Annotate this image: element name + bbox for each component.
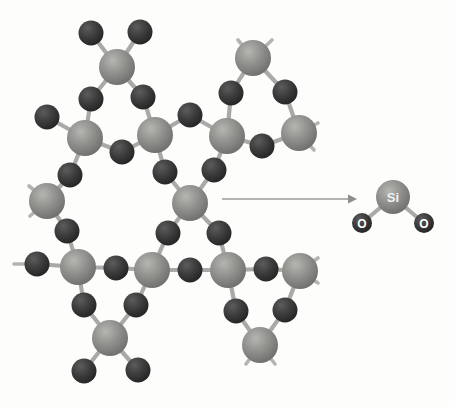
oxygen-atom xyxy=(104,256,129,281)
product-oxygen-atom-right: O xyxy=(414,213,434,233)
oxygen-atom xyxy=(25,252,50,277)
silicon-atom xyxy=(242,327,278,363)
oxygen-atom-label-left: O xyxy=(357,217,366,231)
oxygen-atom xyxy=(254,257,279,282)
silicon-atom xyxy=(99,49,135,85)
oxygen-atom xyxy=(153,160,178,185)
oxygen-atom xyxy=(72,293,97,318)
oxygen-atom xyxy=(72,359,97,384)
silicon-atom-label: Si xyxy=(387,190,399,205)
oxygen-atom xyxy=(58,163,83,188)
oxygen-atom xyxy=(178,103,203,128)
oxygen-atom xyxy=(110,140,135,165)
product-silicon-atom: Si xyxy=(376,180,410,214)
silicon-atom xyxy=(60,249,96,285)
oxygen-atom-label-right: O xyxy=(419,217,428,231)
oxygen-atom xyxy=(126,358,151,383)
oxygen-atom xyxy=(273,298,298,323)
silicon-atom xyxy=(210,252,246,288)
silicon-atom xyxy=(281,115,317,151)
oxygen-atom xyxy=(79,21,104,46)
bond-group xyxy=(37,32,300,371)
product-oxygen-atom-left: O xyxy=(352,213,372,233)
silicon-atom xyxy=(235,40,271,76)
silicon-atom xyxy=(29,183,65,219)
silicon-atom xyxy=(172,185,208,221)
oxygen-atom xyxy=(156,221,181,246)
silicon-atom xyxy=(209,118,245,154)
oxygen-atom xyxy=(79,87,104,112)
silicon-atom xyxy=(92,320,128,356)
arrow-head-icon xyxy=(348,195,357,204)
silicon-atom xyxy=(282,253,318,289)
silicon-atom xyxy=(134,252,170,288)
silicon-atom xyxy=(67,120,103,156)
oxygen-atom xyxy=(131,85,156,110)
oxygen-atom xyxy=(273,80,298,105)
oxygen-atom xyxy=(128,20,153,45)
oxygen-atom xyxy=(202,158,227,183)
molecular-diagram-canvas: Si O O xyxy=(0,0,455,407)
oxygen-atom xyxy=(55,219,80,244)
sio2-product-molecule: Si O O xyxy=(352,180,434,233)
oxygen-atom xyxy=(207,221,232,246)
oxygen-atom xyxy=(178,258,203,283)
silica-structure-figure: Si O O xyxy=(0,0,455,407)
oxygen-atom xyxy=(35,105,60,130)
oxygen-atom xyxy=(250,134,275,159)
silicon-atom xyxy=(137,117,173,153)
oxygen-atom xyxy=(124,293,149,318)
reaction-arrow xyxy=(222,195,357,204)
oxygen-atom xyxy=(224,299,249,324)
oxygen-atom xyxy=(219,81,244,106)
